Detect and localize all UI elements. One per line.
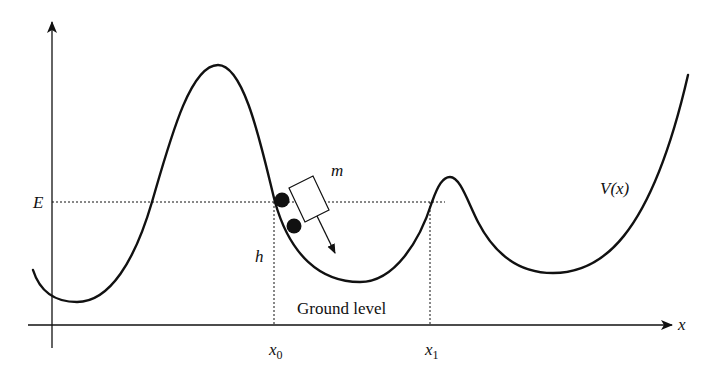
cart-wheel-lower	[287, 219, 302, 234]
x1-label: x1	[424, 340, 439, 362]
force-arrow	[317, 216, 335, 253]
height-label: h	[255, 247, 264, 266]
x0-label: x0	[268, 340, 283, 362]
potential-energy-diagram: E h m V(x) Ground level x x0 x1	[0, 0, 713, 375]
curve-label: V(x)	[600, 179, 630, 198]
cart	[275, 176, 336, 253]
mass-label: m	[331, 161, 343, 180]
ground-level-label: Ground level	[297, 299, 387, 318]
potential-curve	[33, 65, 688, 302]
x-axis-label: x	[677, 315, 686, 334]
cart-wheel-upper	[275, 193, 290, 208]
energy-label: E	[32, 193, 44, 212]
cart-body	[289, 176, 329, 222]
